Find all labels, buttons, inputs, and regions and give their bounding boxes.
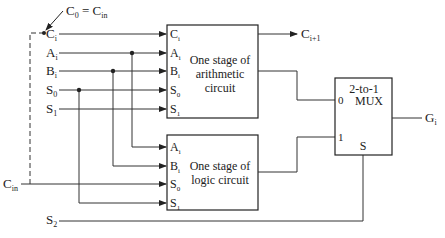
logic-input-wires — [21, 53, 166, 203]
svg-text:C0 = Cin: C0 = Cin — [66, 3, 107, 20]
input-labels: Ci Ai Bi S0 S1 Cin S2 — [3, 26, 58, 229]
label-s1: S1 — [46, 101, 57, 118]
label-s2: S2 — [46, 212, 57, 229]
svg-text:1: 1 — [338, 131, 344, 143]
svg-text:S: S — [360, 139, 367, 153]
label-carry-out: Ci+1 — [301, 26, 320, 43]
arithmetic-circuit-block: Ci Ai Bi S0 S1 One stage of arithmetic c… — [167, 25, 258, 118]
arithmetic-logic-unit-diagram: C0 = Cin Ci Ai Bi S0 S1 Cin S2 Ci Ai — [0, 0, 445, 238]
label-ai: Ai — [46, 45, 58, 62]
svg-text:MUX: MUX — [355, 94, 383, 108]
svg-text:0: 0 — [338, 94, 344, 106]
label-cin: Cin — [3, 176, 18, 193]
svg-text:circuit: circuit — [205, 81, 236, 95]
svg-text:arithmetic: arithmetic — [196, 67, 245, 81]
svg-text:One stage of: One stage of — [190, 53, 251, 67]
logic-circuit-block: Ai Bi S0 S1 One stage of logic circuit — [167, 135, 258, 212]
label-bi: Bi — [46, 63, 58, 80]
svg-text:logic circuit: logic circuit — [191, 173, 249, 187]
carry-in-annotation: C0 = Cin — [46, 3, 107, 30]
label-s0: S0 — [46, 82, 57, 99]
label-ci: Ci — [46, 26, 58, 43]
mux-2-to-1: 2-to-1 MUX 0 1 S — [335, 78, 392, 155]
svg-text:One stage of: One stage of — [190, 159, 251, 173]
label-output-gi: Gi — [425, 110, 437, 127]
dashed-carry-link — [30, 33, 44, 184]
